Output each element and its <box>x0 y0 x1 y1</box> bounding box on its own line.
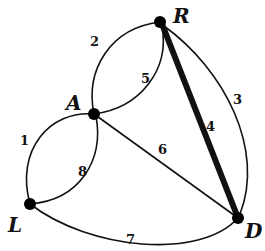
node-D <box>232 212 244 224</box>
edge-label-5: 5 <box>141 71 150 86</box>
node-label-L: L <box>7 213 22 237</box>
node-R <box>154 16 166 28</box>
edge-label-6: 6 <box>158 142 167 157</box>
node-label-R: R <box>172 4 190 28</box>
edge-label-4: 4 <box>206 119 215 134</box>
node-label-A: A <box>64 91 82 115</box>
edge-label-2: 2 <box>90 34 99 49</box>
edge-4 <box>162 24 238 218</box>
node-label-D: D <box>244 219 263 243</box>
edge-label-1: 1 <box>20 133 29 148</box>
edge-label-8: 8 <box>78 164 87 179</box>
edge-2 <box>92 22 160 114</box>
node-A <box>88 108 100 120</box>
node-L <box>24 198 36 210</box>
edge-label-3: 3 <box>233 92 242 107</box>
graph-diagram: R A L D 1 2 3 4 5 6 7 8 <box>0 0 265 251</box>
edge-1 <box>26 114 94 204</box>
edge-8 <box>30 116 98 204</box>
edge-label-7: 7 <box>126 232 135 247</box>
edge-5 <box>94 26 163 114</box>
